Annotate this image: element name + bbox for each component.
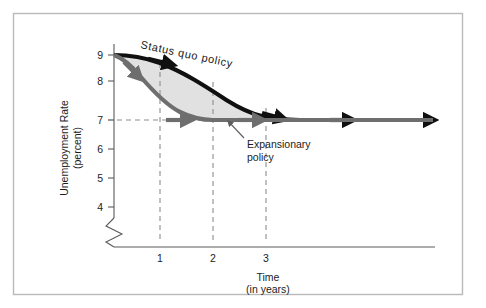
x-tick-label-2: 2 <box>210 252 216 264</box>
y-tick-label-4: 4 <box>97 201 103 213</box>
y-tick-label-9: 9 <box>97 49 103 61</box>
expansionary-policy-label-line2: policy <box>247 151 275 163</box>
y-tick-label-5: 5 <box>97 172 103 184</box>
expansionary-policy-label-line1: Expansionary <box>247 138 311 150</box>
y-axis-title-line1: Unemployment Rate <box>58 100 70 196</box>
x-tick-label-1: 1 <box>157 252 163 264</box>
x-axis-title-line1: Time <box>257 271 280 283</box>
y-tick-label-8: 8 <box>97 75 103 87</box>
chart-svg: 9 8 7 6 5 4 1 2 3 Status quo policy Expa… <box>0 0 486 308</box>
y-tick-label-7: 7 <box>97 114 103 126</box>
unemployment-rate-figure: 9 8 7 6 5 4 1 2 3 Status quo policy Expa… <box>0 0 486 308</box>
y-axis-title-line2: (percent) <box>71 127 83 169</box>
y-tick-label-6: 6 <box>97 143 103 155</box>
x-axis-title-line2: (in years) <box>246 283 290 295</box>
x-tick-label-3: 3 <box>263 252 269 264</box>
